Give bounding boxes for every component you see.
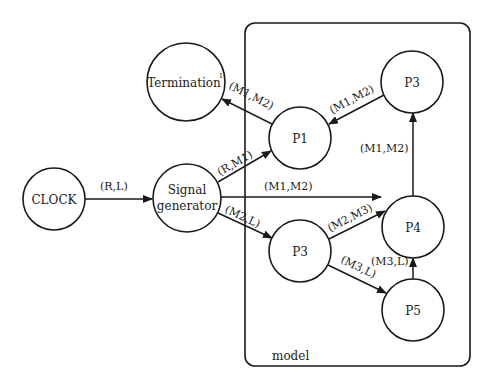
node-p5-label: P5 [405,304,421,318]
model-label: model [272,349,309,363]
node-signal-generator-label-1: Signal [168,183,207,197]
node-p3-top-label: P3 [404,76,420,90]
node-signal-generator: Signal generator [153,164,221,232]
node-p1-label: P1 [292,132,308,146]
diagram-canvas: model (R,L) (R,M1) (M1,M2) (M2,L) (M1,M2… [0,0,496,385]
edge-label-m1-m2-termination: (M1,M2) [227,79,276,113]
node-p3-mid-label: P3 [292,245,308,259]
edge-label-r-l: (R,L) [100,180,128,193]
node-p5: P5 [382,279,444,341]
node-signal-generator-label-2: generator [157,199,218,213]
node-termination: Termination 1 [147,43,225,121]
node-clock: CLOCK [23,168,85,230]
node-p4-label: P4 [405,221,421,235]
node-termination-superscript: 1 [219,72,223,80]
node-p1: P1 [269,107,331,169]
edge-label-m1-m2-to-p4: (M1,M2) [264,180,313,193]
node-clock-label: CLOCK [31,193,77,207]
node-p3-mid: P3 [269,220,331,282]
edge-label-m2-m3: (M2,M3) [325,201,374,235]
edge-label-m2-l: (M2,L) [223,203,263,231]
node-p3-top: P3 [381,51,443,113]
edge-label-m1-m2-p3top: (M1,M2) [360,142,409,155]
node-termination-label: Termination [147,76,221,90]
node-p4: P4 [382,196,444,258]
